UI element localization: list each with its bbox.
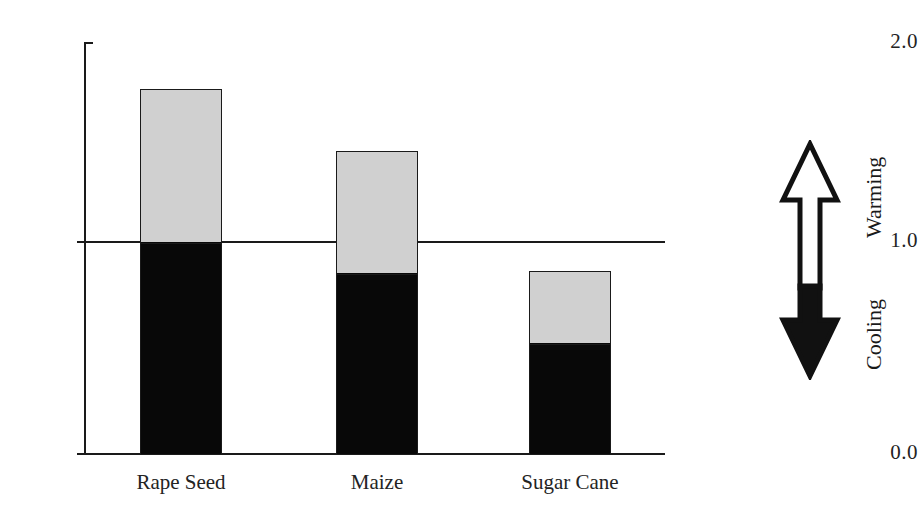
legend-label-cooling: Cooling [861,299,887,370]
bar-segment-upper [337,152,417,274]
chart-figure: 2.0 1.0 0.0 Rape SeedMaizeSugar Cane War… [0,0,918,523]
bar-segment-divider [141,243,221,244]
bar-sugar-cane[interactable] [529,271,611,454]
bar-segment-divider [530,344,610,345]
cooling-arrow-down-shape [783,286,837,376]
warming-arrow-up-shape [783,144,837,288]
bar-segment-upper [141,90,221,242]
bar-segment-divider [337,274,417,275]
x-tick-label-sugar-cane: Sugar Cane [450,470,690,495]
bar-segment-lower [337,273,417,454]
bar-segment-lower [530,343,610,454]
legend-warming-cooling: Warming Cooling [757,110,917,410]
y-tick-mark-2 [84,42,93,44]
double-headed-arrow-icon [775,140,845,380]
y-tick-label-2: 2.0 [852,29,918,54]
y-axis-line [84,42,86,455]
legend-label-warming: Warming [861,157,887,238]
y-tick-mark-0 [77,453,93,455]
bar-segment-lower [141,242,221,454]
bar-maize[interactable] [336,151,418,454]
bar-segment-upper [530,272,610,344]
y-tick-label-0: 0.0 [852,440,918,465]
bar-rape-seed[interactable] [140,89,222,454]
